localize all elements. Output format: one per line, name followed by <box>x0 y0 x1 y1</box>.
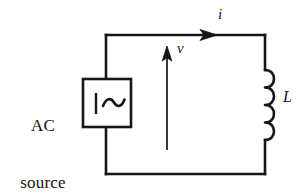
inductor-label: L <box>283 88 292 106</box>
current-label: i <box>218 6 222 23</box>
ac-source-label-line1: AC <box>8 116 78 135</box>
ac-source-label: AC source <box>8 78 78 194</box>
circuit-diagram-figure: AC source i v L <box>0 0 308 194</box>
inductor-coil-icon <box>265 70 274 140</box>
ac-source-label-line2: source <box>8 173 78 192</box>
voltage-label: v <box>177 40 184 57</box>
